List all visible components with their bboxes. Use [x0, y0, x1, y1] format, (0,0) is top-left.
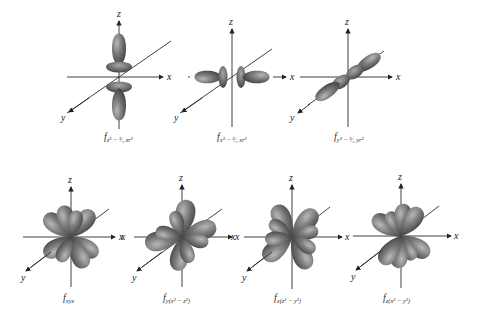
y-label: y: [350, 271, 356, 282]
torus-icon: [106, 62, 132, 73]
caption-fx3: fx³ − ³⁄₅ xr²: [217, 131, 247, 143]
x-label-left: x: [120, 231, 126, 242]
x-label: x: [289, 71, 295, 82]
orbital-fx3: z x y: [173, 16, 295, 127]
caption-fz-x2-y2: fz(x² − y²): [383, 292, 410, 304]
z-label: z: [116, 8, 121, 19]
x-label: x: [395, 71, 401, 82]
y-label: y: [241, 272, 247, 283]
lobe-icon: [112, 34, 126, 67]
caption-fx-z2-y2: fx(z² − y²): [274, 292, 301, 304]
orbital-fx-z2-y2: z x x y: [230, 172, 350, 289]
caption-fy3: fy³ − ³⁄₅ yr²: [334, 131, 364, 143]
z-label: z: [178, 172, 183, 183]
z-label: z: [67, 174, 72, 185]
y-label: y: [131, 272, 137, 283]
orbital-fxyz: z x y: [20, 174, 124, 287]
y-label: y: [289, 112, 295, 123]
f-orbitals-diagram: z x y z x y z x: [0, 0, 480, 321]
caption-fy-x2-z2: fy(x² − z²): [163, 292, 190, 304]
orbital-fy-x2-z2: z x x y: [120, 172, 240, 287]
torus-icon: [219, 66, 228, 88]
y-label: y: [60, 112, 66, 123]
caption-fz3: fz³ − ³⁄₅ zr²: [104, 131, 133, 143]
x-label: x: [453, 230, 459, 241]
z-label: z: [288, 172, 293, 183]
orbital-fz3: z x y: [60, 8, 172, 129]
x-label-left: x: [230, 231, 236, 242]
caption-fxyz: fxyz: [63, 292, 74, 304]
lobe-icon: [242, 71, 269, 84]
orbital-fy3: z x y: [289, 16, 401, 127]
y-label: y: [20, 272, 26, 283]
lobe-icon: [195, 71, 222, 84]
y-label: y: [173, 112, 179, 123]
z-label: z: [228, 16, 233, 27]
z-label: z: [397, 171, 402, 182]
z-label: z: [344, 16, 349, 27]
lobe-icon: [112, 88, 126, 121]
orbital-fz-x2-y2: z x y: [350, 171, 459, 288]
x-label: x: [166, 71, 172, 82]
x-label: x: [344, 231, 350, 242]
